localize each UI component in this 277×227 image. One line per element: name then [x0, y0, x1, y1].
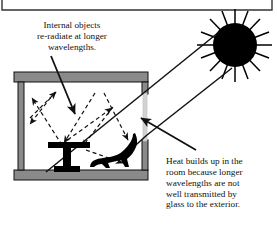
figure-canvas: Internal objects re-radiate at longer wa…	[0, 0, 277, 227]
caption-left-line-2: re-radiate at longer	[14, 31, 130, 42]
window-glass	[143, 93, 147, 141]
caption-left-line-3: wavelengths.	[14, 42, 130, 53]
caption-right-line-2: room because longer	[166, 167, 270, 178]
caption-right-line-1: Heat builds up in the	[166, 156, 270, 167]
page-frame-border	[2, 0, 272, 10]
caption-left-line-1: Internal objects	[14, 20, 130, 31]
caption-right-line-3: wavelengths are not	[166, 178, 270, 189]
caption-right-line-5: glass to the exterior.	[166, 199, 270, 210]
caption-right-line-4: well transmitted by	[166, 189, 270, 200]
sun-icon	[197, 9, 272, 82]
internal-objects-caption: Internal objects re-radiate at longer wa…	[14, 20, 130, 53]
heat-builds-up-caption: Heat builds up in the room because longe…	[166, 156, 270, 210]
